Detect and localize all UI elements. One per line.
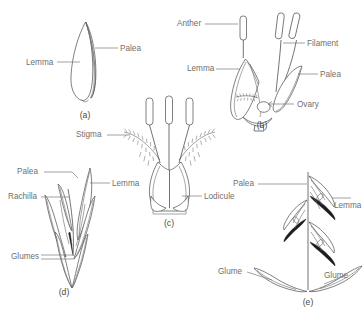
panel-d: Palea Lemma Rachilla Glumes (d) — [8, 167, 140, 297]
panel-d-letter: (d) — [59, 287, 70, 297]
anther-1-b — [275, 13, 285, 40]
panel-c-letter: (c) — [164, 218, 174, 228]
panel-e-label-glume-right: Glume — [324, 271, 349, 280]
floret-top-right-e — [309, 176, 335, 220]
stigma-right-c — [179, 129, 215, 166]
panel-d-label-rachilla: Rachilla — [8, 192, 38, 201]
anther-3-c — [186, 98, 193, 125]
panel-a-letter: (a) — [80, 110, 91, 120]
glumes-leader-d — [41, 255, 74, 259]
panel-d-label-palea: Palea — [17, 167, 38, 176]
panel-e-letter: (e) — [303, 297, 314, 307]
panel-a-label-lemma: Lemma — [26, 58, 54, 67]
anther-detached-b — [240, 16, 247, 40]
glume-left-e — [254, 268, 307, 292]
panel-c-label-lodicule: Lodicule — [204, 192, 235, 201]
panel-e: Palea Lemma Glume Glume (e) — [218, 172, 362, 307]
panel-e-label-palea: Palea — [233, 179, 254, 188]
panel-d-label-lemma: Lemma — [112, 179, 140, 188]
grass-floret-diagram: Lemma Palea (a) — [0, 0, 363, 313]
panel-b-label-palea: Palea — [320, 70, 341, 79]
anther-2-b — [288, 12, 300, 39]
panel-e-label-lemma: Lemma — [334, 201, 362, 210]
panel-b-label-ovary: Ovary — [297, 100, 320, 109]
panel-e-label-glume-left: Glume — [218, 267, 243, 276]
panel-a-label-palea: Palea — [120, 44, 141, 53]
panel-a: Lemma Palea (a) — [26, 22, 141, 120]
filament-1-c — [150, 125, 161, 163]
panel-c-label-stigma: Stigma — [76, 130, 102, 139]
filament-3-c — [179, 125, 190, 163]
panel-b: Anther Lemma Filament Palea Ovary (b) — [177, 12, 341, 131]
palea-middle-e — [284, 200, 307, 230]
panel-b-label-filament: Filament — [307, 39, 339, 48]
floret-middle-left-e — [284, 200, 307, 242]
floret-shadow-d — [69, 232, 73, 254]
panel-c: Stigma Lodicule (c) — [76, 96, 235, 228]
palea-top-e — [309, 176, 334, 207]
floret-lower-right-e — [309, 222, 335, 266]
anther-1-c — [146, 98, 153, 125]
filament-1-b — [276, 40, 281, 92]
ovary-shape-b — [257, 102, 270, 113]
panel-b-letter: (b) — [257, 120, 268, 130]
panel-d-label-glumes: Glumes — [11, 252, 39, 261]
panel-b-label-anther: Anther — [177, 19, 201, 28]
anther-2-c — [166, 96, 173, 124]
stigma-left-c — [124, 129, 160, 166]
panel-b-label-lemma: Lemma — [187, 64, 215, 73]
palea-leader-d — [44, 172, 78, 178]
palea-lower-e — [309, 222, 334, 253]
